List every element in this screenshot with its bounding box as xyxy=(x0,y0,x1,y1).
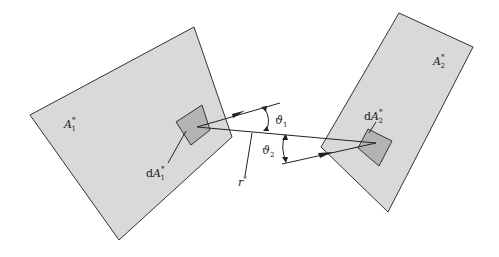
label-theta2: ϑ2 xyxy=(262,144,274,159)
leader-r xyxy=(245,133,252,176)
label-da2: dA*2 xyxy=(364,108,383,125)
angle-arc-theta2-arrow-bottom-icon xyxy=(282,157,288,163)
surface-a2 xyxy=(321,13,473,212)
label-a2: A*2 xyxy=(432,53,445,70)
label-da1: dA*1 xyxy=(146,165,165,182)
label-r: r* xyxy=(238,175,247,189)
angle-arc-theta1-arrow-top-icon xyxy=(261,106,267,112)
normal-da1-arrow-icon xyxy=(232,111,245,119)
radiation-exchange-diagram: A*1 A*2 dA*1 dA*2 r* ϑ1 ϑ2 xyxy=(0,0,499,257)
label-theta1: ϑ1 xyxy=(275,114,287,129)
label-a1: A*1 xyxy=(63,116,76,133)
